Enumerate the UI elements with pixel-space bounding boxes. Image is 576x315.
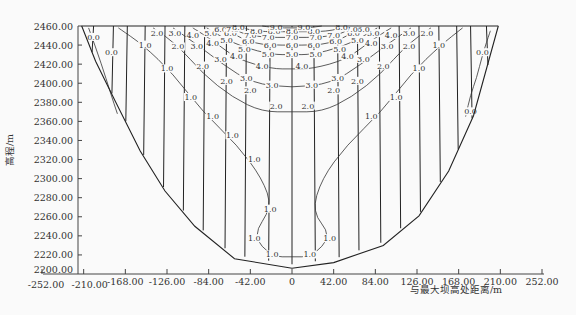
contour-label: 1.0 [303,250,316,259]
contour-label: 3.0 [305,81,318,90]
contour-label: 8.0 [250,27,263,36]
contour-label: 3.0 [240,74,253,83]
contour-label: 3.0 [214,55,227,64]
section-line [486,26,488,65]
contour-label: 0.0 [87,33,100,42]
contour-label: 1.0 [184,93,197,102]
contour-label: 1.0 [432,41,445,50]
contour-label: 9.0 [298,23,311,32]
contour-label: 4.0 [385,31,398,40]
contour-label: 3.0 [381,42,394,51]
contour-label: 2.0 [196,62,209,71]
section-line [379,26,381,243]
section-line [471,26,473,118]
contour-label: 1.0 [266,250,279,259]
x-tick-label: -168.00 [107,276,143,287]
y-tick-label: 2300.00 [34,173,73,184]
contour-label: 0.0 [476,48,489,57]
section-line [164,26,166,187]
contour-label: 1.0 [413,64,426,73]
contour-lines: 0.00.00.00.01.01.01.01.01.01.01.01.01.01… [87,23,491,259]
contour-label: 2.0 [327,86,340,95]
contour-label: 8.0 [335,23,348,32]
contour-label: 1.0 [161,64,174,73]
section-line [203,26,205,230]
contour-label: 2.0 [421,29,434,38]
contour-label: 3.0 [266,81,279,90]
y-axis-title: 高程/m [4,134,15,166]
y-tick-label: 2260.00 [34,211,73,222]
contour-label: 9.0 [270,23,283,32]
contour-label: 3.0 [190,42,203,51]
x-tick-label: 252.00 [525,276,558,287]
contour-label: 1.0 [206,112,219,121]
y-tick-label: 2400.00 [34,78,73,89]
contour-label: 2.0 [351,77,364,86]
contour-label: 3.0 [331,74,344,83]
x-tick-label: 42.00 [320,276,347,287]
axes: 2200.002220.002240.002260.002280.002300.… [4,21,559,296]
contour-label: 1.0 [323,234,336,243]
contour-label: 2.0 [377,62,390,71]
contour-label: 2.0 [220,77,233,86]
contour-label: 2.0 [403,42,416,51]
contour-label: 8.0 [286,27,299,36]
y-tick-label: 2320.00 [34,154,73,165]
contour-label: 1.0 [139,41,152,50]
contour-label: 5.0 [309,50,322,59]
y-tick-label: 2460.00 [34,21,73,32]
contour-label: 8.0 [232,23,245,32]
y-tick-label: 2420.00 [34,59,73,70]
contour-label: 1.0 [264,205,277,214]
section-line [457,26,459,149]
contour-label: 0.0 [105,48,118,57]
section-line [112,26,114,93]
contour-label: 5.0 [238,45,251,54]
contour-label: 1.0 [248,234,261,243]
x-tick-label: -210.00 [71,279,107,290]
x-axis-title: 与最大坝高处距离/m [410,284,502,295]
contour-label: 1.0 [248,155,261,164]
contour-label: 2.0 [244,86,257,95]
y-tick-label: 2240.00 [34,230,73,241]
x-tick-label: -42.00 [235,276,265,287]
contour-label: 1.0 [365,112,378,121]
y-ticks: 2200.002220.002240.002260.002280.002300.… [34,21,82,276]
y-tick-label: 2280.00 [34,192,73,203]
x-tick-label: 84.00 [362,276,389,287]
contour-chart: 2200.002220.002240.002260.002280.002300.… [0,0,576,315]
contour-label: 6.0 [357,25,370,34]
contour-label: 5.0 [333,45,346,54]
plot-area: 0.00.00.00.01.01.01.01.01.01.01.01.01.01… [82,23,499,268]
contour-label: 5.0 [262,50,275,59]
contour-label: 3.0 [403,29,416,38]
section-line [314,26,316,261]
y-tick-label: 2200.00 [34,264,73,275]
y-tick-label: 2380.00 [34,97,73,108]
contour-label: 2.0 [151,29,164,38]
x-tick-label: -126.00 [149,276,185,287]
contour-label: 1.0 [390,93,403,102]
section-line [419,26,421,212]
x-tick-label: -84.00 [193,276,223,287]
contour-label: 4.0 [186,31,199,40]
y-tick-label: 2440.00 [34,40,73,51]
contour-label: 4.0 [365,39,378,48]
contour-label: 4.0 [206,39,219,48]
y-tick-label: 2220.00 [34,249,73,260]
section-line [399,26,401,228]
contour-label: 3.0 [357,55,370,64]
contour-label: 1.0 [226,131,239,140]
x-tick-label: 0 [289,276,295,287]
contour-label: 4.0 [256,62,269,71]
contour-label: 3.0 [169,29,182,38]
y-tick-label: 2360.00 [34,116,73,127]
section-line [269,26,271,261]
section-line [126,26,128,121]
contour-label: 2.0 [172,42,185,51]
x-tick-label: -252.00 [28,279,64,290]
vertical-grid-lines [92,26,488,264]
contour-label: 5.0 [286,50,299,59]
y-tick-label: 2340.00 [34,135,73,146]
contour-label: 4.0 [296,62,309,71]
